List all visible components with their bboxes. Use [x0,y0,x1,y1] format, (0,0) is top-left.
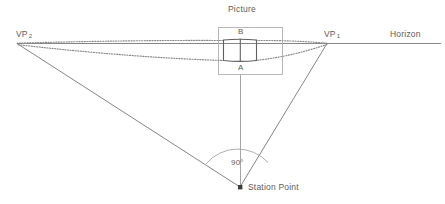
projector-bottom-left-to-vp2 [17,45,224,61]
sight-line-to-vp1 [240,44,327,188]
label-vp2-text: VP [16,29,28,39]
projector-top-right-to-vp1 [256,40,327,43]
projector-top-left-to-vp2 [17,40,223,43]
label-picture-plane: Picture [228,5,256,14]
label-point-b: B [238,28,244,36]
label-vp2: VP2 [16,30,32,39]
label-point-a: A [238,64,244,72]
diagram-canvas [0,0,445,204]
label-vp1: VP1 [324,30,340,39]
label-vp1-text: VP [324,29,336,39]
label-angle-90: 90° [231,159,244,167]
perspective-diagram: VP2 VP1 Horizon Picture B A 90° Station … [0,0,445,204]
label-horizon: Horizon [390,30,421,39]
label-station-point: Station Point [248,183,299,192]
station-point-marker [238,185,242,189]
projector-bottom-right-to-vp1 [255,44,327,60]
picture-plane-rect [219,28,283,75]
label-vp1-subscript: 1 [336,33,341,39]
sight-line-to-vp2 [17,44,240,188]
label-vp2-subscript: 2 [28,33,33,39]
